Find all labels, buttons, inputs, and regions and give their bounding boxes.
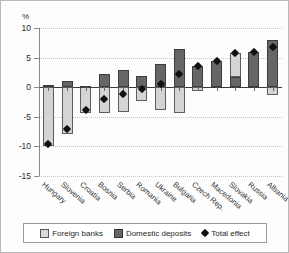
bar-domestic-deposits — [174, 49, 185, 87]
x-axis-tick — [86, 87, 87, 91]
legend-label-domestic-deposits: Domestic deposits — [126, 229, 191, 238]
y-axis-label: 5 — [7, 53, 31, 63]
x-axis-tick — [217, 87, 218, 91]
y-axis-label: 10 — [7, 23, 31, 33]
gridline — [39, 117, 282, 118]
gridline — [39, 146, 282, 147]
x-axis-tick — [254, 87, 255, 91]
chart-frame: % Foreign banks Domestic deposits Total … — [0, 0, 289, 253]
bar-domestic-deposits — [248, 52, 259, 87]
diamond-marker-icon — [201, 229, 209, 237]
bar-domestic-deposits — [230, 77, 241, 88]
bar-foreign-banks — [43, 87, 54, 146]
chart-legend: Foreign banks Domestic deposits Total ef… — [23, 223, 267, 243]
gridline — [39, 28, 282, 29]
x-axis-tick — [48, 87, 49, 91]
legend-item-foreign-banks: Foreign banks — [40, 229, 103, 238]
y-axis-label: -10 — [7, 141, 31, 151]
legend-item-domestic-deposits: Domestic deposits — [114, 229, 191, 238]
y-axis-label: -5 — [7, 112, 31, 122]
x-axis-tick — [104, 87, 105, 91]
legend-item-total-effect: Total effect — [202, 229, 250, 238]
y-axis-label: 0 — [7, 82, 31, 92]
plot-area — [39, 28, 282, 176]
y-axis-label: -15 — [7, 171, 31, 181]
x-axis-category-label: Albania — [265, 180, 289, 203]
y-axis — [39, 28, 40, 176]
square-dark-swatch-icon — [114, 229, 123, 238]
x-axis-tick — [179, 87, 180, 91]
x-axis-tick — [198, 87, 199, 91]
y-axis-unit-label: % — [22, 12, 29, 21]
gridline — [39, 58, 282, 59]
gridline — [39, 176, 282, 177]
y-axis-tick — [34, 176, 39, 177]
x-axis-category-label: Serbia — [115, 180, 138, 201]
legend-label-total-effect: Total effect — [211, 229, 250, 238]
bar-domestic-deposits — [118, 70, 129, 87]
bar-domestic-deposits — [99, 74, 110, 87]
x-axis-tick — [235, 87, 236, 91]
x-axis-tick — [67, 87, 68, 91]
square-light-swatch-icon — [40, 229, 49, 238]
x-axis-tick — [273, 87, 274, 91]
legend-label-foreign-banks: Foreign banks — [52, 229, 103, 238]
